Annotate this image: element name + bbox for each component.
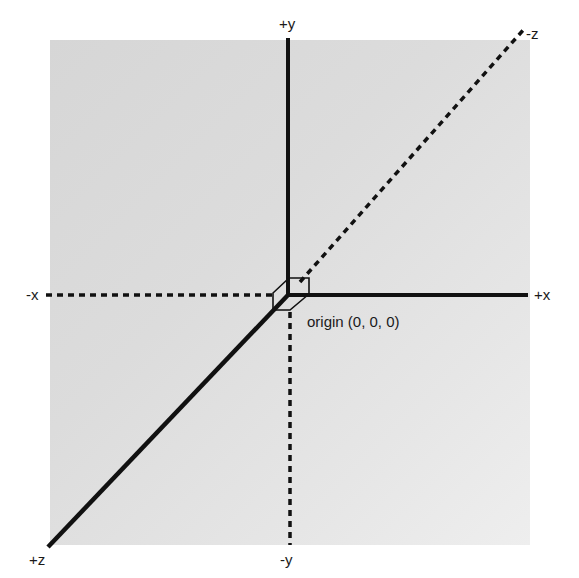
neg-z-axis [300,28,525,282]
label-pos-x: +x [534,287,550,302]
label-origin: origin (0, 0, 0) [307,314,400,329]
label-neg-y: -y [280,552,293,567]
label-neg-x: -x [26,287,39,302]
pos-z-axis [48,295,288,547]
label-neg-z: -z [526,26,539,41]
axes-diagram [0,0,579,578]
label-pos-y: +y [279,16,295,31]
label-pos-z: +z [29,552,45,567]
